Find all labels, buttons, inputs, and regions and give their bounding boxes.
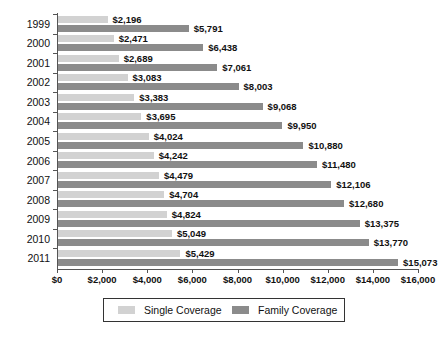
category-row: 2004$3,695$9,950 <box>57 112 418 132</box>
bar-value-label: $13,770 <box>374 238 408 248</box>
bar-value-label: $4,479 <box>164 171 193 181</box>
bar-value-label: $9,950 <box>287 121 316 131</box>
y-axis-tick <box>53 112 57 113</box>
x-axis-tick <box>147 269 148 273</box>
y-axis-tick-label: 2008 <box>0 195 50 206</box>
y-axis-tick <box>53 34 57 35</box>
bar-value-label: $4,824 <box>172 210 201 220</box>
bar-value-label: $4,242 <box>159 151 188 161</box>
y-axis-tick <box>53 14 57 15</box>
bar-single-2007 <box>58 172 159 179</box>
x-axis-tick <box>418 269 419 273</box>
bar-single-2000 <box>58 35 114 42</box>
bar-value-label: $9,068 <box>268 102 297 112</box>
legend-label: Single Coverage <box>144 305 222 316</box>
bar-value-label: $5,791 <box>194 24 223 34</box>
y-axis-tick-label: 2001 <box>0 58 50 69</box>
x-axis-tick-label: $2,000 <box>88 275 117 285</box>
category-row: 2010$5,049$13,770 <box>57 229 418 249</box>
legend-item-single-coverage: Single Coverage <box>118 305 222 316</box>
bar-family-2001 <box>58 64 217 71</box>
category-row: 2003$3,383$9,068 <box>57 92 418 112</box>
y-axis-tick-label: 2009 <box>0 214 50 225</box>
y-axis-tick-label: 2003 <box>0 97 50 108</box>
bar-value-label: $7,061 <box>222 63 251 73</box>
y-axis-tick <box>53 248 57 249</box>
category-row: 2005$4,024$10,880 <box>57 131 418 151</box>
x-axis-tick-label: $4,000 <box>133 275 162 285</box>
category-row: 2008$4,704$12,680 <box>57 190 418 210</box>
bar-family-2003 <box>58 103 263 110</box>
y-axis-tick <box>53 229 57 230</box>
x-axis-tick-label: $12,000 <box>311 275 345 285</box>
bar-single-2006 <box>58 152 154 159</box>
bar-value-label: $2,689 <box>124 54 153 64</box>
x-axis-tick <box>57 269 58 273</box>
x-axis-tick-label: $8,000 <box>223 275 252 285</box>
y-axis-tick <box>53 209 57 210</box>
y-axis-tick-label: 2005 <box>0 136 50 147</box>
plot-area: 1999$2,196$5,7912000$2,471$6,4382001$2,6… <box>57 14 418 268</box>
x-axis-tick <box>192 269 193 273</box>
bar-value-label: $4,024 <box>154 132 183 142</box>
bar-value-label: $8,003 <box>244 82 273 92</box>
y-axis-tick <box>53 92 57 93</box>
y-axis-tick-label: 2004 <box>0 116 50 127</box>
bar-value-label: $12,106 <box>336 180 370 190</box>
bar-value-label: $15,073 <box>403 258 437 268</box>
legend-swatch-icon <box>232 306 249 314</box>
bar-single-2004 <box>58 113 141 120</box>
y-axis-tick-label: 2007 <box>0 175 50 186</box>
bar-value-label: $5,429 <box>185 249 214 259</box>
y-axis-tick <box>53 151 57 152</box>
bar-single-2011 <box>58 250 180 257</box>
category-row: 2007$4,479$12,106 <box>57 170 418 190</box>
bar-single-2009 <box>58 211 167 218</box>
x-axis-tick <box>238 269 239 273</box>
bar-value-label: $3,695 <box>146 112 175 122</box>
bar-family-2007 <box>58 181 331 188</box>
bar-value-label: $3,383 <box>139 93 168 103</box>
y-axis-tick-label: 2006 <box>0 156 50 167</box>
bar-value-label: $4,704 <box>169 190 198 200</box>
bar-family-2009 <box>58 220 360 227</box>
legend-label: Family Coverage <box>258 305 337 316</box>
bar-chart: 1999$2,196$5,7912000$2,471$6,4382001$2,6… <box>0 0 446 339</box>
x-axis-tick-label: $14,000 <box>356 275 390 285</box>
x-axis-tick-label: $10,000 <box>265 275 299 285</box>
bar-family-2010 <box>58 239 369 246</box>
bar-family-2004 <box>58 122 282 129</box>
bar-single-2005 <box>58 133 149 140</box>
bar-value-label: $12,680 <box>349 199 383 209</box>
bar-single-2010 <box>58 230 172 237</box>
bar-single-1999 <box>58 16 108 23</box>
bar-family-2000 <box>58 44 203 51</box>
y-axis-tick <box>53 131 57 132</box>
x-axis-tick-label: $6,000 <box>178 275 207 285</box>
category-row: 2002$3,083$8,003 <box>57 73 418 93</box>
bar-single-2003 <box>58 94 134 101</box>
y-axis-tick-label: 2010 <box>0 234 50 245</box>
x-axis-tick <box>102 269 103 273</box>
y-axis-tick-label: 2011 <box>0 253 50 264</box>
bar-family-1999 <box>58 25 189 32</box>
bar-value-label: $11,480 <box>322 160 356 170</box>
bar-family-2008 <box>58 200 344 207</box>
bar-family-2006 <box>58 161 317 168</box>
y-axis-tick <box>53 53 57 54</box>
x-axis-tick-label: $0 <box>52 275 63 285</box>
legend-swatch-icon <box>118 306 135 314</box>
bar-value-label: $6,438 <box>208 43 237 53</box>
bar-value-label: $5,049 <box>177 229 206 239</box>
y-axis-tick <box>53 73 57 74</box>
bar-family-2011 <box>58 259 398 266</box>
legend-item-family-coverage: Family Coverage <box>232 305 337 316</box>
category-row: 2009$4,824$13,375 <box>57 209 418 229</box>
y-axis-tick-label: 1999 <box>0 19 50 30</box>
bar-value-label: $3,083 <box>133 73 162 83</box>
bar-value-label: $13,375 <box>365 219 399 229</box>
category-row: 1999$2,196$5,791 <box>57 14 418 34</box>
category-row: 2000$2,471$6,438 <box>57 34 418 54</box>
bar-single-2001 <box>58 55 119 62</box>
y-axis-tick <box>53 170 57 171</box>
